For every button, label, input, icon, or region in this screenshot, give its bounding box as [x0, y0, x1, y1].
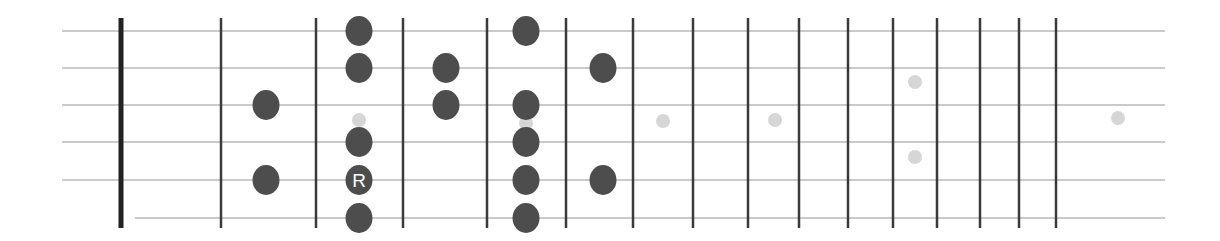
scale-note — [513, 203, 540, 233]
inlay-markers — [352, 75, 1125, 164]
scale-notes: R — [253, 16, 617, 233]
scale-note — [590, 165, 617, 195]
scale-note — [433, 90, 460, 120]
scale-note — [513, 90, 540, 120]
scale-note — [433, 53, 460, 83]
inlay-marker — [352, 113, 366, 127]
scale-note — [253, 165, 280, 195]
scale-note — [513, 127, 540, 157]
inlay-marker — [908, 150, 922, 164]
fretboard-diagram: R — [0, 0, 1220, 241]
root-note: R — [346, 165, 373, 195]
scale-note — [590, 53, 617, 83]
scale-note — [346, 203, 373, 233]
frets — [121, 18, 1056, 228]
scale-note — [513, 16, 540, 46]
inlay-marker — [908, 75, 922, 89]
scale-note — [513, 165, 540, 195]
scale-note — [346, 127, 373, 157]
inlay-marker — [1111, 111, 1125, 125]
scale-note — [346, 53, 373, 83]
scale-note — [346, 16, 373, 46]
inlay-marker — [768, 113, 782, 127]
inlay-marker — [656, 114, 670, 128]
root-label: R — [352, 170, 366, 191]
scale-note — [253, 90, 280, 120]
